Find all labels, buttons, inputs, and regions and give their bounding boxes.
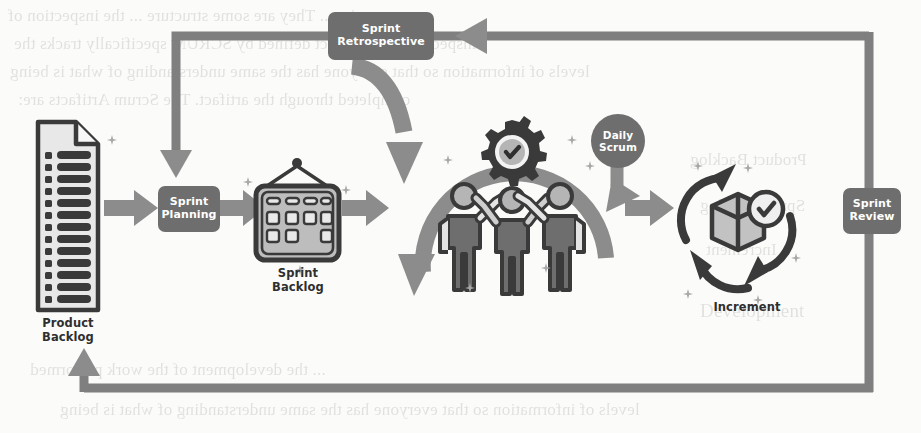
caption-increment-line1: Increment: [692, 300, 802, 314]
arrow-backlog-to-planning: [104, 190, 158, 226]
diagram-artwork: [0, 0, 921, 433]
arrow-sprint-backlog-to-team: [342, 190, 389, 226]
badge-sprint-review-line2: Review: [849, 211, 894, 224]
badge-sprint-retrospective-line2: Retrospective: [337, 36, 425, 49]
caption-sprint-backlog-line1: Sprint: [248, 266, 348, 280]
caption-product-backlog: Product Backlog: [18, 316, 118, 345]
badge-sprint-planning[interactable]: Sprint Planning: [158, 186, 220, 232]
box-cycle-check-icon: [681, 161, 801, 305]
badge-sprint-review[interactable]: Sprint Review: [843, 188, 901, 234]
caption-increment: Increment: [692, 300, 802, 314]
caption-sprint-backlog-line2: Backlog: [248, 280, 348, 294]
badge-daily-scrum-line2: Scrum: [599, 141, 637, 153]
sprint-cycle-inbound-arrow: [352, 66, 423, 184]
badge-sprint-retrospective[interactable]: Sprint Retrospective: [328, 12, 434, 60]
caption-product-backlog-line2: Backlog: [18, 330, 118, 344]
hanging-board-icon: [243, 158, 351, 275]
caption-sprint-backlog: Sprint Backlog: [248, 266, 348, 295]
badge-daily-scrum-line1: Daily: [603, 129, 633, 141]
increment-to-backlog-line: [68, 348, 873, 392]
caption-product-backlog-line1: Product: [18, 316, 118, 330]
scrum-diagram: rig. ... They are some structure ... the…: [0, 0, 921, 433]
scrum-team-icon: [440, 116, 595, 294]
badge-daily-scrum[interactable]: Daily Scrum: [591, 114, 645, 168]
badge-sprint-planning-line2: Planning: [161, 209, 216, 222]
retrospective-arrowhead: [455, 18, 487, 54]
